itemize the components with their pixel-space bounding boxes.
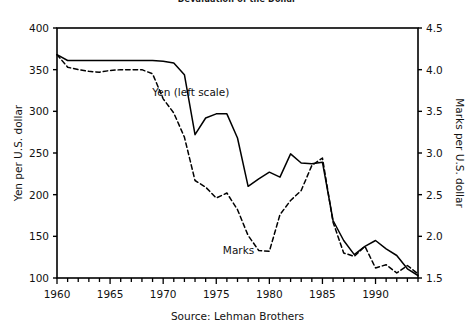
source-note: Source: Lehman Brothers — [171, 310, 304, 322]
x-tick-label: 1960 — [44, 288, 71, 300]
right-tick-label: 4.0 — [426, 64, 443, 76]
right-tick-label: 3.0 — [426, 147, 443, 159]
x-tick-label: 1990 — [362, 288, 389, 300]
right-axis-ticks: 1.52.02.53.03.54.04.5 — [418, 22, 443, 284]
source-label: Source: Lehman Brothers — [171, 310, 304, 322]
series-lines — [57, 55, 418, 276]
right-tick-label: 1.5 — [426, 272, 443, 284]
x-tick-label: 1980 — [256, 288, 283, 300]
left-tick-label: 150 — [29, 230, 49, 242]
left-tick-label: 350 — [29, 64, 49, 76]
right-tick-label: 2.5 — [426, 189, 443, 201]
x-tick-label: 1975 — [203, 288, 230, 300]
left-tick-label: 250 — [29, 147, 49, 159]
plot-frame — [57, 28, 418, 278]
chart-canvas: 100150200250300350400 1.52.02.53.03.54.0… — [0, 0, 474, 327]
chart-container: Devaluation of the Dollar 10015020025030… — [0, 0, 474, 327]
left-axis-ticks: 100150200250300350400 — [29, 22, 57, 284]
right-tick-label: 3.5 — [426, 105, 443, 117]
series-annotation-1: Yen (left scale) — [151, 86, 229, 98]
left-tick-label: 100 — [29, 272, 49, 284]
x-tick-label: 1985 — [309, 288, 336, 300]
x-tick-label: 1970 — [150, 288, 177, 300]
x-axis-ticks: 1960196519701975198019851990 — [44, 278, 418, 300]
right-tick-label: 2.0 — [426, 230, 443, 242]
series-annotation-2: Marks — [223, 244, 254, 256]
left-tick-label: 300 — [29, 105, 49, 117]
left-axis-title: Yen per U.S. dollar — [12, 104, 24, 202]
right-tick-label: 4.5 — [426, 22, 443, 34]
x-tick-label: 1965 — [97, 288, 124, 300]
left-tick-label: 400 — [29, 22, 49, 34]
axis-titles: Yen per U.S. dollarMarks per U.S. dollar — [12, 98, 466, 208]
series-line-2 — [57, 55, 418, 274]
left-tick-label: 200 — [29, 189, 49, 201]
series-line-1 — [57, 55, 418, 276]
series-annotations: Yen (left scale)Marks — [151, 86, 254, 256]
right-axis-title: Marks per U.S. dollar — [454, 98, 466, 208]
